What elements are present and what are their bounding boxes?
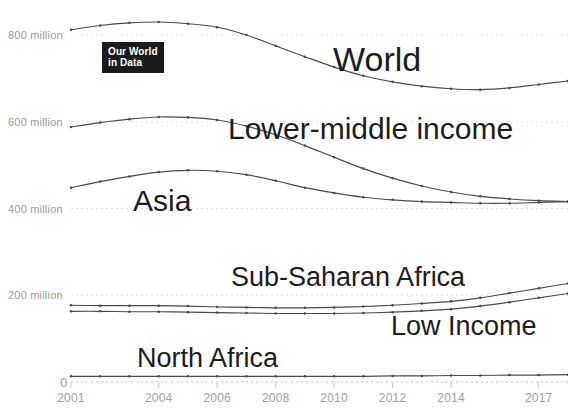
data-point xyxy=(157,116,160,119)
data-point xyxy=(99,121,102,124)
data-point xyxy=(70,375,73,378)
data-point xyxy=(70,126,73,128)
data-point xyxy=(538,287,541,290)
data-point xyxy=(99,304,102,307)
data-point xyxy=(245,34,248,37)
data-point xyxy=(216,375,219,378)
series-label-north-africa: North Africa xyxy=(137,343,278,374)
data-point xyxy=(450,300,453,303)
data-point xyxy=(216,311,219,314)
data-point xyxy=(421,302,424,305)
line-chart-plot xyxy=(0,0,568,410)
series-label-asia: Asia xyxy=(133,184,191,218)
data-point xyxy=(187,375,190,378)
chart-container: Our World in Data 800 million600 million… xyxy=(0,0,568,410)
series-label-lower-middle-income: Lower-middle income xyxy=(228,112,513,146)
data-point xyxy=(333,306,336,309)
data-point xyxy=(508,292,511,295)
data-point xyxy=(538,83,541,86)
data-point xyxy=(157,375,160,378)
data-point xyxy=(216,26,219,29)
data-point xyxy=(362,196,365,199)
data-point xyxy=(245,306,248,309)
series-line xyxy=(71,375,568,377)
x-axis-tick-label: 2014 xyxy=(437,391,465,405)
data-point xyxy=(216,306,219,309)
y-axis-tick-label: 200 million xyxy=(8,289,63,301)
data-point xyxy=(479,305,482,308)
data-point xyxy=(538,374,541,377)
data-point xyxy=(479,195,482,198)
data-point xyxy=(187,22,190,25)
data-point xyxy=(304,307,307,310)
data-point xyxy=(70,304,73,307)
data-point xyxy=(450,88,453,91)
data-point xyxy=(538,297,541,300)
data-point xyxy=(450,308,453,311)
x-axis-tick-label: 2004 xyxy=(145,391,173,405)
data-point xyxy=(245,312,248,315)
data-point xyxy=(450,374,453,377)
data-point xyxy=(187,305,190,308)
x-axis-tick-label: 2012 xyxy=(379,391,407,405)
data-point xyxy=(157,171,160,174)
data-point xyxy=(99,24,102,27)
data-point xyxy=(362,167,365,170)
data-point xyxy=(421,185,424,188)
data-point xyxy=(479,297,482,300)
data-point xyxy=(216,170,219,173)
series-label-low-income: Low Income xyxy=(391,311,537,342)
data-point xyxy=(274,45,277,48)
x-axis-tick-label: 2006 xyxy=(203,391,231,405)
data-point xyxy=(391,199,394,202)
data-point xyxy=(157,310,160,313)
data-point xyxy=(99,375,102,378)
data-point xyxy=(450,201,453,204)
data-point xyxy=(508,198,511,201)
data-point xyxy=(99,180,102,183)
data-point xyxy=(362,312,365,315)
data-point xyxy=(157,21,160,24)
y-axis-tick-label: 800 million xyxy=(8,29,63,41)
data-point xyxy=(274,179,277,182)
y-axis-tick-label: 400 million xyxy=(8,203,63,215)
data-point xyxy=(333,156,336,159)
data-point xyxy=(245,375,248,378)
data-point xyxy=(274,307,277,310)
data-point xyxy=(421,200,424,203)
data-point xyxy=(391,375,394,378)
data-point xyxy=(362,305,365,308)
series-north-africa xyxy=(70,373,568,377)
data-point xyxy=(508,202,511,205)
data-point xyxy=(128,304,131,307)
data-point xyxy=(479,374,482,377)
y-axis-tick-label: 0 xyxy=(60,375,67,390)
data-point xyxy=(216,119,219,122)
x-axis-tick-label: 2010 xyxy=(320,391,348,405)
data-point xyxy=(304,186,307,189)
data-point xyxy=(508,87,511,90)
data-point xyxy=(304,312,307,315)
data-point xyxy=(128,22,131,25)
series-label-world: World xyxy=(333,40,421,79)
data-point xyxy=(128,175,131,178)
data-point xyxy=(391,81,394,84)
data-point xyxy=(391,177,394,180)
data-point xyxy=(333,312,336,315)
data-point xyxy=(479,202,482,205)
data-point xyxy=(508,374,511,377)
x-axis-tick-label: 2017 xyxy=(525,391,553,405)
y-axis-tick-label: 600 million xyxy=(8,116,63,128)
data-point xyxy=(70,310,73,313)
data-point xyxy=(128,310,131,313)
data-point xyxy=(304,375,307,378)
logo-line-2: in Data xyxy=(108,57,158,68)
our-world-in-data-logo: Our World in Data xyxy=(102,42,164,73)
data-point xyxy=(157,304,160,307)
x-axis-tick-label: 2001 xyxy=(57,391,85,405)
data-point xyxy=(128,118,131,121)
data-point xyxy=(70,186,73,189)
data-point xyxy=(274,312,277,315)
data-point xyxy=(245,173,248,176)
data-point xyxy=(187,116,190,119)
